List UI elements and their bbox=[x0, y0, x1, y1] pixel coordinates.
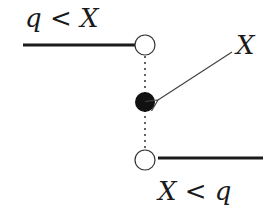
upper-open-point bbox=[135, 35, 155, 55]
filled-point bbox=[135, 92, 155, 112]
label-x: X bbox=[234, 30, 256, 60]
arrow-icon bbox=[158, 52, 232, 100]
step-diagram: q < X X X < q bbox=[0, 0, 277, 223]
lower-open-point bbox=[135, 150, 155, 170]
label-x-less-q: X < q bbox=[156, 176, 231, 206]
label-q-less-x: q < X bbox=[25, 3, 100, 33]
